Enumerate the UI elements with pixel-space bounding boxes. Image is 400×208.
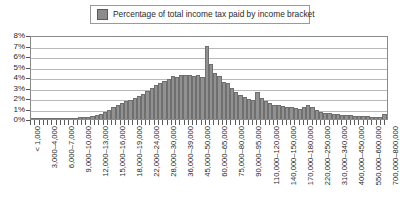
x-axis-tick-label: 22,000–24,000 <box>153 126 161 177</box>
x-axis-tick-label: 170,000–180,000 <box>307 126 315 185</box>
y-axis: 8%7%6%5%4%3%2%1%0% <box>0 36 30 120</box>
x-axis-tick-label: 15,000–16,000 <box>119 126 127 177</box>
legend-swatch-icon <box>97 9 108 20</box>
y-axis-tick-label: 1% <box>13 106 25 114</box>
x-axis-tick-label: 75,000–80,000 <box>238 126 246 177</box>
legend-label: Percentage of total income tax paid by i… <box>113 10 315 18</box>
y-axis-tick-label: 3% <box>13 85 25 93</box>
bar <box>382 114 386 119</box>
x-axis-tick-label: < 1,000 <box>34 126 42 152</box>
y-axis-tick-label: 7% <box>13 43 25 51</box>
y-axis-tick-label: 4% <box>13 74 25 82</box>
x-axis-tick-label: 12,000–13,000 <box>102 126 110 177</box>
x-axis-tick-label: 60,000–65,000 <box>221 126 229 177</box>
x-axis-labels: < 1,0003,000–4,0006,000–7,0009,000–10,00… <box>30 126 388 208</box>
x-axis-tick-label: 700,000–800,000 <box>392 126 400 185</box>
x-axis-tick <box>384 120 388 125</box>
x-axis-tick-label: 110,000–120,000 <box>273 126 281 185</box>
x-axis-tick-label: 550,000–600,000 <box>375 126 383 185</box>
x-axis-tick-label: 90,000–95,000 <box>255 126 263 177</box>
plot-area <box>30 36 388 120</box>
x-axis-tick-label: 3,000–4,000 <box>51 126 59 168</box>
x-axis-ticks <box>30 120 388 125</box>
x-axis-tick-label: 220,000–250,000 <box>324 126 332 185</box>
chart-container: Percentage of total income tax paid by i… <box>0 0 400 208</box>
y-axis-tick-label: 2% <box>13 95 25 103</box>
y-axis-tick-label: 5% <box>13 64 25 72</box>
x-axis-tick-label: 140,000–150,000 <box>290 126 298 185</box>
y-axis-tick-label: 0% <box>13 116 25 124</box>
x-axis-tick-label: 400,000–450,000 <box>358 126 366 185</box>
y-axis-tick-label: 6% <box>13 53 25 61</box>
x-axis-tick-label: 36,000–39,000 <box>187 126 195 177</box>
bar-series <box>31 37 387 119</box>
x-axis-tick-label: 6,000–7,000 <box>68 126 76 168</box>
x-axis-tick-label: 18,000–19,000 <box>136 126 144 177</box>
x-axis-tick-label: 28,000–30,000 <box>170 126 178 177</box>
x-axis-tick-label: 9,000–10,000 <box>85 126 93 172</box>
x-axis-tick-label: 310,000–340,000 <box>341 126 349 185</box>
chart-legend: Percentage of total income tax paid by i… <box>90 5 310 24</box>
x-axis-tick-label: 45,000–50,000 <box>204 126 212 177</box>
y-axis-tick-label: 8% <box>13 32 25 40</box>
